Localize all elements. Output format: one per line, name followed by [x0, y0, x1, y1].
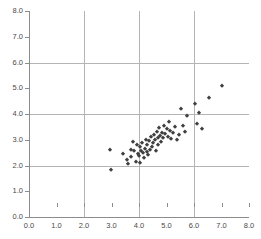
- x-tick-label: 4.0: [127, 221, 151, 230]
- y-axis-line: [29, 11, 30, 218]
- y-tick-label: 6.0: [3, 58, 23, 67]
- axis-frame-layer: [29, 11, 249, 218]
- x-tick-label: 8.0: [237, 221, 261, 230]
- y-tick-mark: [25, 11, 29, 12]
- y-tick-mark: [25, 114, 29, 115]
- plot-area: [29, 11, 249, 218]
- y-tick-mark: [25, 191, 29, 192]
- top-caption: [6, 0, 126, 8]
- y-tick-label: 2.0: [3, 161, 23, 170]
- y-tick-label: 5.0: [3, 83, 23, 92]
- scatter-chart-figure: 0.01.02.03.04.05.06.07.08.0 0.01.02.03.0…: [0, 0, 261, 239]
- y-tick-label: 3.0: [3, 135, 23, 144]
- y-tick-label: 8.0: [3, 6, 23, 15]
- y-tick-mark: [25, 217, 29, 218]
- x-tick-label: 7.0: [210, 221, 234, 230]
- x-tick-label: 3.0: [100, 221, 124, 230]
- x-tick-label: 1.0: [45, 221, 69, 230]
- x-tick-label: 2.0: [72, 221, 96, 230]
- y-tick-mark: [25, 37, 29, 38]
- x-tick-label: 5.0: [155, 221, 179, 230]
- x-tick-mark: [112, 203, 113, 207]
- x-tick-mark: [167, 203, 168, 207]
- y-tick-mark: [25, 140, 29, 141]
- x-axis-line: [29, 217, 249, 218]
- x-tick-mark: [194, 203, 195, 207]
- y-tick-label: 4.0: [3, 109, 23, 118]
- x-tick-mark: [249, 203, 250, 207]
- y-tick-mark: [25, 63, 29, 64]
- y-tick-mark: [25, 88, 29, 89]
- x-tick-mark: [222, 203, 223, 207]
- y-tick-label: 1.0: [3, 186, 23, 195]
- x-tick-label: 0.0: [17, 221, 41, 230]
- y-tick-label: 0.0: [3, 212, 23, 221]
- x-tick-mark: [29, 203, 30, 207]
- x-tick-mark: [139, 203, 140, 207]
- y-tick-mark: [25, 166, 29, 167]
- x-tick-mark: [57, 203, 58, 207]
- y-tick-label: 7.0: [3, 32, 23, 41]
- bottom-caption: [4, 230, 184, 239]
- x-tick-mark: [84, 203, 85, 207]
- x-tick-label: 6.0: [182, 221, 206, 230]
